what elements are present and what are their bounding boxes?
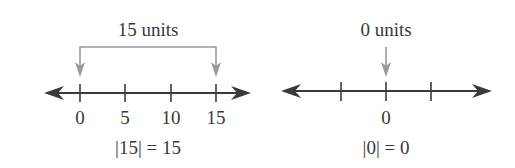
equation-15: |15| = 15 xyxy=(115,137,181,158)
tick-label: 5 xyxy=(120,107,130,128)
number-line-0: 0 units 0 |0| = 0 xyxy=(281,19,492,158)
tick-label: 0 xyxy=(381,107,391,128)
tick-label: 10 xyxy=(162,107,181,128)
number-line-15: 15 units 0 5 10 15 |15| = 15 xyxy=(44,19,251,158)
absolute-value-diagrams: 15 units 0 5 10 15 |15| = 15 0 units xyxy=(0,0,515,168)
distance-bracket xyxy=(75,47,221,77)
distance-label-0: 0 units xyxy=(360,19,411,40)
distance-label-15: 15 units xyxy=(118,19,179,40)
equation-0: |0| = 0 xyxy=(363,137,410,158)
tick-label: 0 xyxy=(75,107,85,128)
tick-label: 15 xyxy=(207,107,226,128)
